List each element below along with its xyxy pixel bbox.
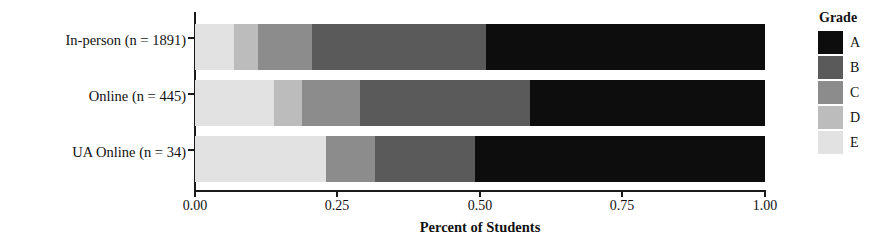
- bar-segment-ua-online-A: [475, 136, 765, 182]
- bar-segment-online-D: [274, 80, 302, 126]
- y-axis-label-1: Online (n = 445): [89, 89, 186, 104]
- x-axis-tick-0: [194, 190, 196, 197]
- bar-segment-online-E: [195, 80, 274, 126]
- legend-item-a[interactable]: A: [818, 30, 886, 55]
- bar-segment-online-A: [530, 80, 765, 126]
- legend-label-a: A: [850, 35, 860, 51]
- x-axis-ticklabel-3: 0.75: [610, 198, 635, 214]
- bar-segment-ua-online-E: [195, 136, 326, 182]
- stacked-bar-chart-figure: In-person (n = 1891) Online (n = 445) UA…: [0, 0, 888, 245]
- x-axis-ticklabel-4: 1.00: [753, 198, 778, 214]
- x-axis-tick-1: [336, 190, 338, 197]
- legend-swatch-c: [818, 81, 843, 104]
- bar-segment-in-person-A: [486, 24, 765, 70]
- x-axis-tick-2: [479, 190, 481, 197]
- legend-swatch-d: [818, 106, 843, 129]
- x-axis-tick-4: [764, 190, 766, 197]
- x-axis-tick-3: [621, 190, 623, 197]
- plot-area: [195, 14, 765, 190]
- legend-title: Grade: [819, 10, 886, 26]
- legend-label-b: B: [850, 60, 859, 76]
- x-axis-ticklabel-2: 0.50: [468, 198, 493, 214]
- legend-swatch-b: [818, 56, 843, 79]
- legend-swatch-e: [818, 131, 843, 154]
- y-axis-label-2: UA Online (n = 34): [72, 145, 186, 160]
- bar-in-person[interactable]: [195, 24, 765, 70]
- bar-segment-online-B: [360, 80, 530, 126]
- bar-online[interactable]: [195, 80, 765, 126]
- bar-segment-ua-online-B: [375, 136, 475, 182]
- x-axis-ticklabel-1: 0.25: [325, 198, 350, 214]
- x-axis-ticklabel-0: 0.00: [183, 198, 208, 214]
- bar-segment-in-person-B: [312, 24, 486, 70]
- legend-item-b[interactable]: B: [818, 55, 886, 80]
- legend: Grade A B C D E: [818, 10, 886, 155]
- x-axis-title: Percent of Students: [195, 219, 765, 236]
- legend-label-d: D: [850, 110, 860, 126]
- bar-segment-online-C: [302, 80, 360, 126]
- bar-segment-in-person-D: [234, 24, 258, 70]
- legend-label-c: C: [850, 85, 859, 101]
- legend-item-c[interactable]: C: [818, 80, 886, 105]
- y-axis-labels: In-person (n = 1891) Online (n = 445) UA…: [0, 0, 186, 245]
- legend-label-e: E: [850, 135, 859, 151]
- bar-ua-online[interactable]: [195, 136, 765, 182]
- legend-item-e[interactable]: E: [818, 130, 886, 155]
- y-axis-label-0: In-person (n = 1891): [65, 33, 186, 48]
- legend-item-d[interactable]: D: [818, 105, 886, 130]
- bar-segment-in-person-C: [258, 24, 312, 70]
- legend-swatch-a: [818, 31, 843, 54]
- bar-segment-in-person-E: [195, 24, 234, 70]
- bar-segment-ua-online-C: [326, 136, 375, 182]
